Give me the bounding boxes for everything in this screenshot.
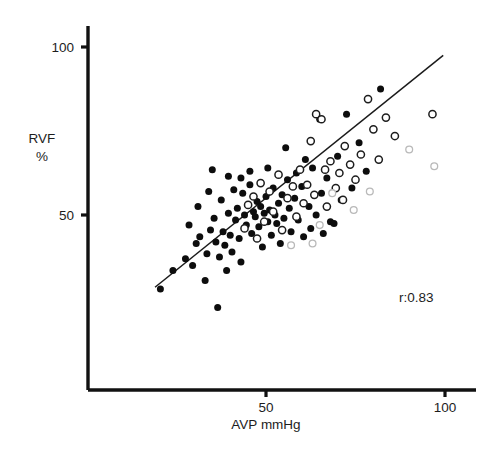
- data-point-marker: [300, 233, 307, 240]
- data-point-marker: [282, 144, 289, 151]
- data-point-marker: [302, 156, 309, 163]
- data-point-marker: [327, 158, 334, 165]
- data-point-marker: [241, 212, 248, 219]
- data-point-marker: [356, 139, 363, 146]
- data-point-marker: [236, 235, 243, 242]
- data-point-marker: [223, 267, 230, 274]
- data-point-marker: [366, 188, 373, 195]
- data-point-marker: [343, 111, 350, 118]
- data-point-marker: [273, 220, 280, 227]
- data-point-marker: [406, 146, 413, 153]
- data-point-marker: [209, 166, 216, 173]
- data-point-marker: [311, 191, 318, 198]
- data-point-marker: [341, 143, 348, 150]
- data-point-marker: [264, 164, 271, 171]
- data-point-marker: [382, 114, 389, 121]
- data-point-marker: [300, 200, 307, 207]
- data-point-marker: [230, 186, 237, 193]
- y-tick-label: 100: [51, 40, 74, 55]
- x-tick-label: 100: [434, 400, 457, 415]
- scatter-plot-figure: 5010050100 AVP mmHg RVF % r:0.83: [0, 0, 496, 449]
- data-point-marker: [253, 235, 260, 242]
- data-point-marker: [225, 210, 232, 217]
- data-point-marker: [261, 218, 268, 225]
- data-point-marker: [157, 285, 164, 292]
- data-point-marker: [228, 248, 235, 255]
- data-point-marker: [391, 132, 398, 139]
- data-point-marker: [284, 195, 291, 202]
- data-point-marker: [348, 185, 355, 192]
- data-point-marker: [220, 228, 227, 235]
- data-point-marker: [339, 196, 346, 203]
- y-tick-label: 50: [59, 208, 74, 223]
- data-point-marker: [257, 179, 264, 186]
- data-point-marker: [334, 153, 341, 160]
- data-point-marker: [279, 227, 286, 234]
- data-point-marker: [318, 116, 325, 123]
- data-point-marker: [245, 201, 252, 208]
- data-point-marker: [250, 193, 257, 200]
- data-point-marker: [350, 207, 357, 214]
- data-point-marker: [211, 215, 218, 222]
- data-point-marker: [237, 175, 244, 182]
- data-point-marker: [323, 175, 330, 182]
- data-point-marker: [202, 277, 209, 284]
- data-point-marker: [203, 250, 210, 257]
- data-point-marker: [316, 222, 323, 229]
- y-axis-label-line1: RVF: [29, 131, 56, 146]
- data-point-marker: [347, 161, 354, 168]
- data-point-marker: [218, 196, 225, 203]
- data-point-marker: [205, 188, 212, 195]
- x-axis-label: AVP mmHg: [231, 417, 300, 432]
- data-point-marker: [364, 95, 371, 102]
- data-point-marker: [352, 176, 359, 183]
- data-point-marker: [321, 166, 328, 173]
- data-point-marker: [291, 195, 298, 202]
- data-point-marker: [275, 171, 282, 178]
- data-point-marker: [309, 164, 316, 171]
- data-point-marker: [289, 183, 296, 190]
- data-point-marker: [431, 163, 438, 170]
- data-point-marker: [293, 213, 300, 220]
- data-point-marker: [288, 228, 295, 235]
- data-point-marker: [429, 111, 436, 118]
- data-point-marker: [370, 126, 377, 133]
- data-point-marker: [329, 190, 336, 197]
- data-point-marker: [194, 203, 201, 210]
- data-point-marker: [331, 220, 338, 227]
- data-point-marker: [270, 208, 277, 215]
- data-point-marker: [221, 242, 228, 249]
- data-point-marker: [225, 173, 232, 180]
- data-point-marker: [280, 215, 287, 222]
- axis-tick-labels: 5010050100: [51, 40, 456, 415]
- chart-annotations: r:0.83: [399, 290, 434, 305]
- data-point-marker: [259, 243, 266, 250]
- data-point-marker: [169, 267, 176, 274]
- data-point-marker: [313, 212, 320, 219]
- plot-canvas: 5010050100 AVP mmHg RVF % r:0.83: [0, 0, 496, 449]
- data-point-marker: [227, 232, 234, 239]
- data-point-marker: [304, 181, 311, 188]
- data-point-marker: [182, 255, 189, 262]
- data-point-marker: [232, 217, 239, 224]
- data-point-marker: [246, 181, 253, 188]
- x-tick-label: 50: [258, 400, 273, 415]
- data-point-marker: [323, 203, 330, 210]
- data-point-marker: [239, 190, 246, 197]
- y-axis-label-line2: %: [36, 149, 48, 164]
- data-point-marker: [186, 222, 193, 229]
- data-point-marker: [246, 168, 253, 175]
- data-point-marker: [196, 233, 203, 240]
- data-point-marker: [377, 86, 384, 93]
- data-point-marker: [318, 190, 325, 197]
- data-point-marker: [288, 242, 295, 249]
- data-point-marker: [286, 205, 293, 212]
- data-point-marker: [309, 240, 316, 247]
- data-point-marker: [207, 227, 214, 234]
- data-point-marker: [307, 225, 314, 232]
- plot-axes: [88, 26, 476, 390]
- data-point-marker: [214, 304, 221, 311]
- data-point-marker: [266, 188, 273, 195]
- data-point-marker: [234, 205, 241, 212]
- data-point-marker: [241, 225, 248, 232]
